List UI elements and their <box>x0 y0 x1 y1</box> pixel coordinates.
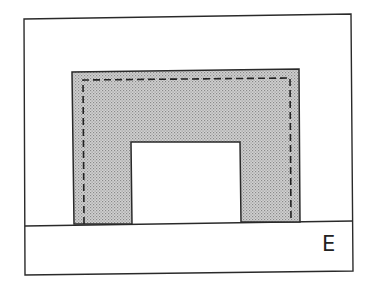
cross-section-diagram <box>0 0 374 295</box>
base-layer-label: E <box>322 234 335 255</box>
